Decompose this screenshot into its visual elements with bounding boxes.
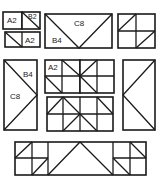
mid-right-tall <box>123 60 155 130</box>
bottom-strip <box>15 142 146 175</box>
label-b2: B2 <box>28 13 37 20</box>
mid-center-grid-b <box>80 60 114 93</box>
top-right-grid <box>118 14 155 48</box>
label-b4-top: B4 <box>52 36 62 45</box>
label-b4-mid: B4 <box>23 70 33 79</box>
mid-center-lower-grid <box>47 97 113 131</box>
paper-layout-diagram: A2 B2 A2 C8 B4 B4 C8 A2 <box>0 0 165 188</box>
mid-left-tall: B4 C8 <box>4 60 37 130</box>
mid-center-grid-a: A2 <box>45 60 80 93</box>
top-center-box: C8 B4 <box>45 14 112 48</box>
top-left-group: A2 B2 A2 <box>3 12 40 47</box>
label-a2-bottom: A2 <box>25 36 35 45</box>
label-a2-top: A2 <box>7 16 17 25</box>
label-c8-mid: C8 <box>10 92 21 101</box>
label-a2-mid: A2 <box>48 63 58 72</box>
label-c8-top: C8 <box>74 19 85 28</box>
